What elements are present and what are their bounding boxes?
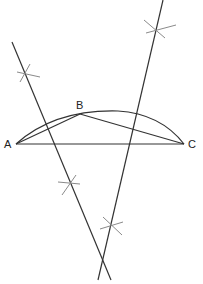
label-b: B [76,99,83,111]
circumscribing-arc [16,111,184,144]
label-a: A [4,138,12,150]
arc-mark-bc-top [144,20,176,38]
geometry-diagram: A B C [0,0,203,284]
bisector-bc-line [98,0,163,280]
bisector-ab-line [12,42,111,280]
label-c: C [188,138,196,150]
arc-mark-ab-top [17,64,40,82]
